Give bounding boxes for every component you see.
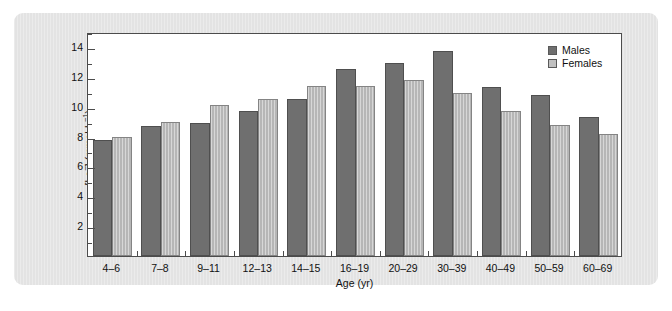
y-axis-major-tick	[88, 49, 95, 50]
x-axis-separator-tick	[574, 251, 575, 256]
x-axis-separator-tick	[234, 251, 235, 256]
y-axis-major-tick	[88, 139, 95, 140]
x-axis-separator-tick	[380, 251, 381, 256]
x-axis-separator-tick	[331, 251, 332, 256]
bar-females	[404, 80, 424, 256]
legend-label-males: Males	[562, 44, 590, 57]
legend-item-males: Males	[548, 44, 602, 57]
plot-area	[87, 33, 622, 257]
x-axis-tick-label: 20–29	[379, 262, 428, 274]
legend-item-females: Females	[548, 57, 602, 70]
figure-container: [La−] (mmol·L−1) 2468101214 4–67–89–1112…	[0, 0, 672, 311]
x-axis-tick-label: 9–11	[184, 262, 233, 274]
bar-females	[161, 122, 181, 256]
y-axis-major-tick	[88, 198, 95, 199]
x-axis-tick-label: 50–59	[525, 262, 574, 274]
x-axis-title: Age (yr)	[87, 277, 622, 289]
y-axis-minor-tick	[88, 124, 92, 125]
bar-females	[307, 86, 327, 256]
x-axis-tick-label: 14–15	[282, 262, 331, 274]
x-axis-separator-tick	[137, 251, 138, 256]
bar-females	[453, 93, 473, 256]
y-axis-minor-tick	[88, 94, 92, 95]
bar-males	[336, 69, 356, 256]
bar-females	[112, 137, 132, 256]
legend-label-females: Females	[562, 57, 602, 70]
y-axis-tick-label: 6	[61, 161, 83, 172]
y-axis-minor-tick	[88, 64, 92, 65]
y-axis-tick-label: 10	[61, 102, 83, 113]
x-axis-separator-tick	[185, 251, 186, 256]
bar-males	[531, 95, 551, 256]
x-axis-tick-label: 4–6	[87, 262, 136, 274]
bar-males	[482, 87, 502, 256]
legend-swatch-females-icon	[548, 59, 557, 68]
y-axis-tick-label: 12	[61, 72, 83, 83]
bar-males	[190, 123, 210, 256]
y-axis-minor-tick	[88, 34, 92, 35]
y-axis-major-tick	[88, 168, 95, 169]
bar-males	[385, 63, 405, 256]
bar-females	[501, 111, 521, 256]
y-axis-tick-label-group: [La−] (mmol·L−1) 2468101214	[59, 33, 83, 257]
y-axis-tick-label: 8	[61, 132, 83, 143]
bar-females	[550, 125, 570, 256]
bar-males	[239, 111, 259, 256]
x-axis-separator-tick	[526, 251, 527, 256]
chart-legend: Males Females	[548, 44, 602, 70]
bar-males	[287, 99, 307, 256]
legend-swatch-males-icon	[548, 46, 557, 55]
bar-males	[433, 51, 453, 256]
x-axis-tick-label: 60–69	[573, 262, 622, 274]
y-axis-tick-label: 2	[61, 221, 83, 232]
bar-males	[93, 140, 113, 256]
bar-females	[356, 86, 376, 256]
bar-males	[579, 117, 599, 256]
y-axis-minor-tick	[88, 213, 92, 214]
x-axis-tick-label: 7–8	[136, 262, 185, 274]
y-axis-major-tick	[88, 79, 95, 80]
bar-males	[141, 126, 161, 256]
x-axis-tick-label: 16–19	[330, 262, 379, 274]
x-axis-separator-tick	[283, 251, 284, 256]
x-axis-separator-tick	[477, 251, 478, 256]
y-axis-tick-label: 14	[61, 42, 83, 53]
x-axis-tick-label: 40–49	[476, 262, 525, 274]
x-axis-tick-label: 12–13	[233, 262, 282, 274]
x-axis-tick-label: 30–39	[427, 262, 476, 274]
y-axis-minor-tick	[88, 183, 92, 184]
bar-females	[599, 134, 619, 256]
bar-females	[210, 105, 230, 256]
bar-females	[258, 99, 278, 256]
y-axis-minor-tick	[88, 243, 92, 244]
x-axis-separator-tick	[428, 251, 429, 256]
y-axis-major-tick	[88, 109, 95, 110]
y-axis-minor-tick	[88, 153, 92, 154]
y-axis-tick-label: 4	[61, 191, 83, 202]
y-axis-major-tick	[88, 228, 95, 229]
